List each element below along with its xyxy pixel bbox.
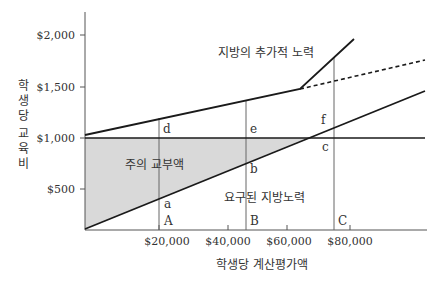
svg-text:생: 생 xyxy=(18,94,29,108)
chart-figure: $2,000 $1,500 $1,000 $500 $20,000 $40,00… xyxy=(0,0,438,286)
point-label-b: b xyxy=(250,162,258,176)
x-tick-60000: $60,000 xyxy=(266,235,312,248)
x-tick-20000: $20,000 xyxy=(144,235,190,248)
y-tick-2000: $2,000 xyxy=(37,29,76,42)
point-label-A: A xyxy=(163,214,173,228)
y-tick-1000: $1,000 xyxy=(37,132,76,145)
x-axis-title: 학생당 계산평가액 xyxy=(216,258,308,272)
y-tick-1500: $1,500 xyxy=(37,81,76,94)
label-additional-effort: 지방의 추가적 노력 xyxy=(218,46,314,60)
x-tick-40000: $40,000 xyxy=(205,235,251,248)
point-label-e: e xyxy=(250,122,257,136)
dashed-extension-line xyxy=(300,60,425,89)
x-tick-80000: $80,000 xyxy=(327,235,373,248)
y-tick-500: $500 xyxy=(47,183,75,196)
point-label-C: C xyxy=(338,214,347,228)
chart-svg: $2,000 $1,500 $1,000 $500 $20,000 $40,00… xyxy=(0,0,438,286)
y-axis-title: 학 생 당 교 육 비 xyxy=(18,79,29,171)
y-ticks xyxy=(80,35,85,189)
svg-text:당: 당 xyxy=(18,109,29,123)
svg-text:학: 학 xyxy=(18,79,29,93)
svg-text:교: 교 xyxy=(18,127,29,141)
point-label-c: c xyxy=(322,140,329,154)
point-label-B: B xyxy=(250,214,259,228)
label-state-grant: 주의 교부액 xyxy=(125,158,184,172)
point-label-d: d xyxy=(163,122,171,136)
svg-text:비: 비 xyxy=(18,157,29,171)
svg-text:육: 육 xyxy=(18,142,29,156)
label-required-effort: 요구된 지방노력 xyxy=(224,191,305,205)
point-label-a: a xyxy=(164,197,171,211)
point-label-f: f xyxy=(321,113,327,127)
